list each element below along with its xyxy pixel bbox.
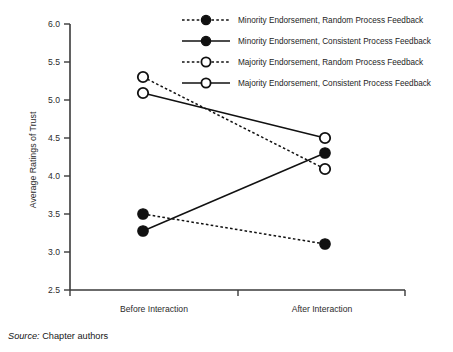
legend-swatch-marker-filled-circle <box>201 15 210 24</box>
source-text: Chapter authors <box>40 331 108 341</box>
y-tick-label: 6.0 <box>48 19 60 29</box>
legend-item-minority-random: Minority Endorsement, Random Process Fee… <box>182 15 424 25</box>
y-tick-label: 4.0 <box>48 171 60 181</box>
data-point-minority-random-before <box>138 209 148 219</box>
source-note: Source: Chapter authors <box>8 331 108 341</box>
legend-item-majority-random: Majority Endorsement, Random Process Fee… <box>182 57 424 67</box>
chart-canvas: Average Ratings of Trust 6.0 5.5 5.0 4.5… <box>0 0 453 352</box>
y-tick-label: 2.5 <box>48 285 60 295</box>
source-keyword: Source: <box>8 331 40 341</box>
data-point-majority-consistent-before <box>138 88 148 98</box>
legend-swatch-marker-open-circle <box>201 78 210 87</box>
x-category-label-after: After Interaction <box>292 304 353 314</box>
legend-item-majority-consistent: Majority Endorsement, Consistent Process… <box>182 78 432 88</box>
series-line-minority-consistent <box>143 153 325 231</box>
y-axis-ticks: 6.0 5.5 5.0 4.5 4.0 3.5 3.0 2.5 <box>48 19 70 295</box>
y-tick-label: 5.5 <box>48 57 60 67</box>
legend-label: Minority Endorsement, Random Process Fee… <box>238 16 424 25</box>
y-axis-title: Average Ratings of Trust <box>28 111 38 208</box>
y-tick-label: 3.5 <box>48 209 60 219</box>
legend-swatch-marker-filled-circle <box>201 36 210 45</box>
chart-legend: Minority Endorsement, Random Process Fee… <box>182 15 432 88</box>
legend-item-minority-consistent: Minority Endorsement, Consistent Process… <box>182 36 432 46</box>
legend-label: Majority Endorsement, Random Process Fee… <box>238 58 424 67</box>
legend-swatch-marker-open-circle <box>201 57 210 66</box>
legend-label: Minority Endorsement, Consistent Process… <box>238 37 432 46</box>
x-category-label-before: Before Interaction <box>120 304 188 314</box>
series-line-majority-consistent <box>143 93 325 138</box>
data-point-majority-consistent-after <box>320 133 330 143</box>
data-point-minority-consistent-after <box>320 148 330 158</box>
y-tick-label: 4.5 <box>48 133 60 143</box>
data-point-minority-consistent-before <box>138 226 148 236</box>
data-point-majority-random-before <box>138 72 148 82</box>
legend-label: Majority Endorsement, Consistent Process… <box>238 79 432 88</box>
data-point-majority-random-after <box>320 164 330 174</box>
y-tick-label: 3.0 <box>48 247 60 257</box>
y-tick-label: 5.0 <box>48 95 60 105</box>
x-axis-ticks <box>70 290 405 296</box>
trust-ratings-line-chart: Average Ratings of Trust 6.0 5.5 5.0 4.5… <box>0 0 453 352</box>
series-line-majority-random <box>143 77 325 169</box>
data-point-minority-random-after <box>320 239 330 249</box>
